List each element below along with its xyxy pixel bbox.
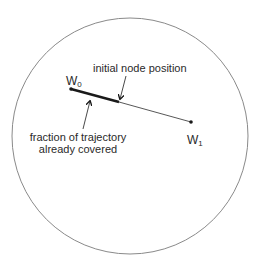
waypoint-w1-label: W1 [187,133,203,148]
fraction-covered-label-line1: fraction of trajectory [30,131,127,143]
initial-node-position-arrow [120,76,126,99]
waypoint-w0-label: W0 [66,74,82,89]
trajectory-diagram: W0 W1 initial node position fraction of … [0,0,257,267]
initial-node-position-label: initial node position [93,62,187,74]
trajectory-remaining-line [119,102,191,122]
fraction-covered-arrow [83,101,90,129]
fraction-covered-label-line2: already covered [39,143,117,155]
trajectory-covered-line [71,89,119,102]
waypoint-w1-dot [189,120,193,124]
